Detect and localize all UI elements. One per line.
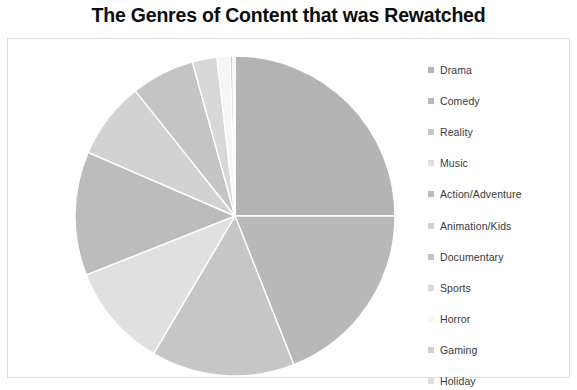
legend-item-label: Reality [440,126,473,138]
page-title: The Genres of Content that was Rewatched [0,4,577,27]
legend-item-label: Holiday [440,375,476,387]
legend-swatch-icon [428,129,434,135]
legend-item[interactable]: Documentary [428,241,563,272]
legend-item[interactable]: Holiday [428,366,563,390]
legend-item-label: Music [440,157,468,169]
legend-item[interactable]: Sports [428,272,563,303]
legend-item[interactable]: Music [428,148,563,179]
legend-item[interactable]: Drama [428,54,563,85]
legend-swatch-icon [428,316,434,322]
legend-swatch-icon [428,254,434,260]
legend-swatch-icon [428,223,434,229]
legend-swatch-icon [428,347,434,353]
legend-item-label: Gaming [440,344,477,356]
legend-swatch-icon [428,378,434,384]
legend-swatch-icon [428,67,434,73]
legend-item[interactable]: Gaming [428,335,563,366]
legend-swatch-icon [428,98,434,104]
legend-item-label: Horror [440,313,470,325]
legend-swatch-icon [428,285,434,291]
legend-item[interactable]: Horror [428,304,563,335]
legend-swatch-icon [428,191,434,197]
legend-item-label: Comedy [440,95,480,107]
legend-item-label: Documentary [440,251,504,263]
legend-swatch-icon [428,160,434,166]
chart-figure: The Genres of Content that was Rewatched… [0,0,577,390]
legend-item[interactable]: Reality [428,116,563,147]
chart-legend: DramaComedyRealityMusicAction/AdventureA… [428,54,563,390]
legend-item-label: Drama [440,64,472,76]
legend-item-label: Sports [440,282,471,294]
legend-item[interactable]: Animation/Kids [428,210,563,241]
legend-item[interactable]: Action/Adventure [428,179,563,210]
legend-item[interactable]: Comedy [428,85,563,116]
legend-item-label: Action/Adventure [440,188,522,200]
legend-item-label: Animation/Kids [440,220,511,232]
